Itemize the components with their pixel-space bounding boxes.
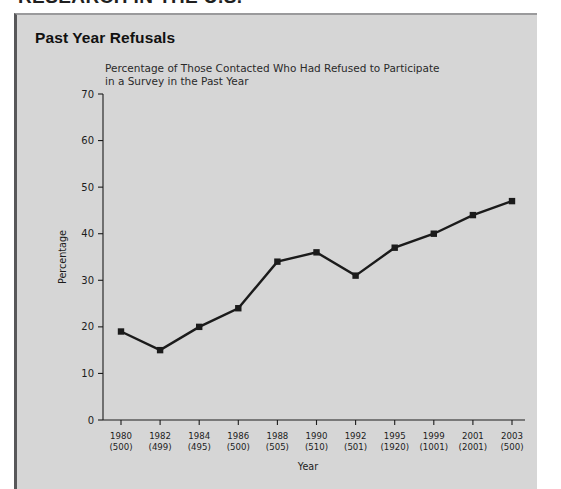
x-axis-tick-label-sample-size: (495) [188,442,211,452]
figure-panel: Past Year Refusals Percentage of Those C… [14,13,537,489]
x-axis-tick-label-year: 2001 [462,431,484,441]
x-axis: 1980(500)1982(499)1984(495)1986(500)1988… [103,420,525,452]
data-series-refusal-rate [118,198,515,353]
x-axis-tick-label-sample-size: (499) [149,442,172,452]
data-point-marker [235,305,241,311]
data-point-marker [470,212,476,218]
y-axis-tick-label: 70 [81,89,94,100]
y-axis-tick-label: 60 [81,135,94,146]
x-axis-tick-label-sample-size: (1920) [380,442,409,452]
data-point-marker [431,231,437,237]
data-point-marker [313,249,319,255]
data-point-marker [392,244,398,250]
x-axis-tick-label-sample-size: (1001) [420,442,449,452]
data-point-marker [157,347,163,353]
chart-svg: 010203040506070 1980(500)1982(499)1984(4… [17,15,540,489]
cut-off-page-heading: RESEARCH IN THE U.S. [0,0,561,11]
x-axis-tick-label-sample-size: (510) [305,442,328,452]
y-axis-tick-label: 20 [81,321,94,332]
cut-off-heading-text: RESEARCH IN THE U.S. [18,0,242,8]
y-axis-tick-label: 40 [81,228,94,239]
data-point-marker [352,272,358,278]
x-axis-tick-label-sample-size: (2001) [459,442,488,452]
x-axis-tick-label-year: 1988 [266,431,288,441]
x-axis-tick-label-sample-size: (505) [266,442,289,452]
data-point-marker [274,258,280,264]
x-axis-tick-label-year: 1986 [227,431,249,441]
x-axis-tick-label-year: 1980 [110,431,132,441]
y-axis: 010203040506070 [81,89,103,426]
y-axis-tick-label: 50 [81,182,94,193]
x-axis-tick-label-year: 1992 [345,431,367,441]
line-chart: 010203040506070 1980(500)1982(499)1984(4… [17,15,540,489]
data-point-marker [196,324,202,330]
x-axis-tick-label-year: 2003 [501,431,523,441]
x-axis-tick-label-year: 1995 [384,431,406,441]
x-axis-tick-label-sample-size: (500) [500,442,523,452]
data-point-marker [118,328,124,334]
x-axis-tick-label-year: 1984 [188,431,210,441]
x-axis-title: Year [297,461,318,472]
y-axis-tick-label: 30 [81,275,94,286]
x-axis-tick-label-year: 1990 [306,431,328,441]
x-axis-tick-label-sample-size: (501) [344,442,367,452]
y-axis-title: Percentage [57,230,68,284]
x-axis-tick-label-year: 1982 [149,431,171,441]
y-axis-tick-label: 10 [81,368,94,379]
data-point-marker [509,198,515,204]
x-axis-tick-label-sample-size: (500) [109,442,132,452]
series-line [121,201,512,350]
x-axis-tick-label-year: 1999 [423,431,445,441]
x-axis-tick-label-sample-size: (500) [227,442,250,452]
y-axis-tick-label: 0 [88,415,94,426]
